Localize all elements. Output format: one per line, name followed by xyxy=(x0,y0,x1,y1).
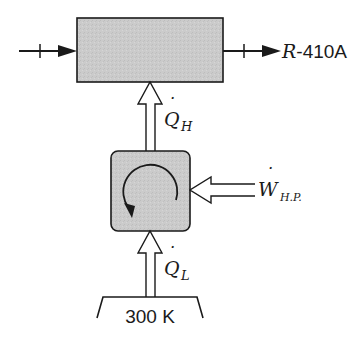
heat-in-arrow-icon xyxy=(138,231,162,297)
work-in-symbol: W xyxy=(258,178,279,200)
refrigerant-label: R-410A xyxy=(281,40,347,62)
outlet-flow-arrow xyxy=(223,44,281,58)
condenser-box xyxy=(77,18,223,82)
work-in-arrow-icon xyxy=(190,177,255,203)
heat-out-arrow-icon xyxy=(138,82,162,151)
inlet-arrowhead-icon xyxy=(58,45,77,57)
heat-out-subscript: H xyxy=(180,119,193,134)
outlet-arrowhead-icon xyxy=(262,45,281,57)
work-in-subscript: H.P. xyxy=(279,191,302,204)
heat-out-label: ˙ Q H xyxy=(164,94,193,134)
inlet-flow-arrow xyxy=(19,44,77,58)
reservoir-temperature-label: 300 K xyxy=(125,306,175,327)
heat-in-symbol: Q xyxy=(164,257,180,279)
heat-pump-diagram: R-410A ˙ Q H ˙ W H.P. ˙ Q L 300 K xyxy=(0,0,355,340)
heat-in-subscript: L xyxy=(180,268,190,283)
work-in-label: ˙ W H.P. xyxy=(258,164,302,204)
heat-out-symbol: Q xyxy=(164,108,180,130)
heat-in-label: ˙ Q L xyxy=(164,243,190,283)
